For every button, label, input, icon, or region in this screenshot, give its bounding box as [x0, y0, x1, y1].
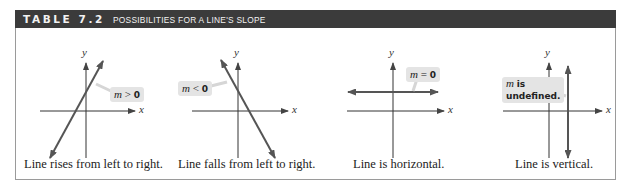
- panel-positive-slope: [40, 61, 135, 158]
- panel-negative-slope: [192, 60, 288, 158]
- slope-label-negative: m < 0: [178, 81, 212, 96]
- slope-label-undefined: m is undefined.: [502, 77, 564, 103]
- caption-negative: Line falls from left to right.: [178, 157, 315, 172]
- sloped-line: [221, 60, 275, 158]
- x-axis-label: x: [606, 103, 611, 115]
- slope-label-zero: m = 0: [406, 67, 440, 82]
- y-axis-label: y: [234, 46, 239, 58]
- caption-zero: Line is horizontal.: [353, 157, 444, 172]
- slope-label-positive: m > 0: [110, 87, 144, 102]
- sloped-line: [50, 61, 103, 158]
- y-axis-label: y: [389, 46, 394, 58]
- x-axis-label: x: [448, 103, 453, 115]
- x-axis-label: x: [292, 103, 297, 115]
- caption-undefined: Line is vertical.: [515, 157, 593, 172]
- y-axis-label: y: [82, 46, 87, 58]
- x-axis-label: x: [139, 103, 144, 115]
- caption-positive: Line rises from left to right.: [24, 157, 163, 172]
- y-axis-label: y: [545, 46, 550, 58]
